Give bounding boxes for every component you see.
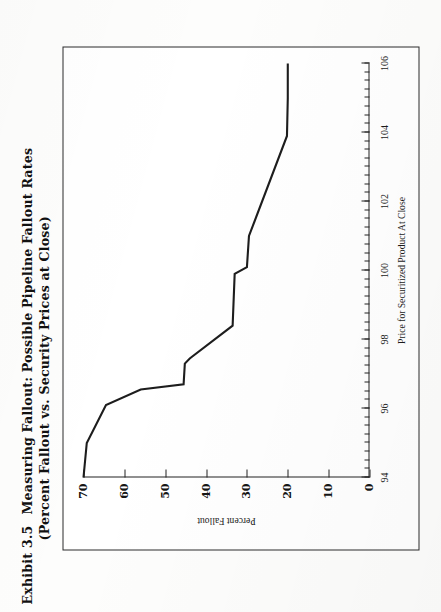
- x-tick-label: 96: [378, 403, 389, 413]
- y-tick-label: 60: [117, 483, 130, 503]
- x-tick-label: 94: [378, 472, 389, 482]
- x-tick-label: 98: [378, 334, 389, 344]
- plot-area: 949698100102104106010203040506070: [83, 63, 369, 477]
- exhibit-number: Exhibit 3.5: [18, 525, 35, 604]
- x-tick-label: 106: [378, 56, 389, 71]
- y-tick-label: 30: [240, 483, 253, 503]
- y-tick-label: 0: [363, 483, 376, 503]
- figure-frame: 949698100102104106010203040506070 Price …: [62, 46, 419, 550]
- y-tick-label: 20: [281, 483, 294, 503]
- x-tick-label: 104: [378, 125, 389, 140]
- x-tick-label: 102: [378, 194, 389, 209]
- y-tick-label: 70: [77, 483, 90, 503]
- figure-stage: Exhibit 3.5Measuring Fallout: Possible P…: [0, 0, 441, 612]
- x-axis-title: Price for Securitized Product At Close: [395, 197, 406, 344]
- exhibit-title: Exhibit 3.5Measuring Fallout: Possible P…: [18, 44, 52, 604]
- exhibit-title-line2: (Percent Fallout vs. Security Prices at …: [35, 44, 52, 540]
- y-axis-title: Percent Fallout: [197, 515, 255, 526]
- x-tick-label: 100: [378, 263, 389, 278]
- exhibit-title-line1: Measuring Fallout: Possible Pipeline Fal…: [19, 147, 34, 514]
- scanned-page: Exhibit 3.5Measuring Fallout: Possible P…: [0, 0, 441, 612]
- fallout-curve: [83, 63, 369, 477]
- y-tick-label: 50: [158, 483, 171, 503]
- y-tick-label: 10: [322, 483, 335, 503]
- y-tick-label: 40: [199, 483, 212, 503]
